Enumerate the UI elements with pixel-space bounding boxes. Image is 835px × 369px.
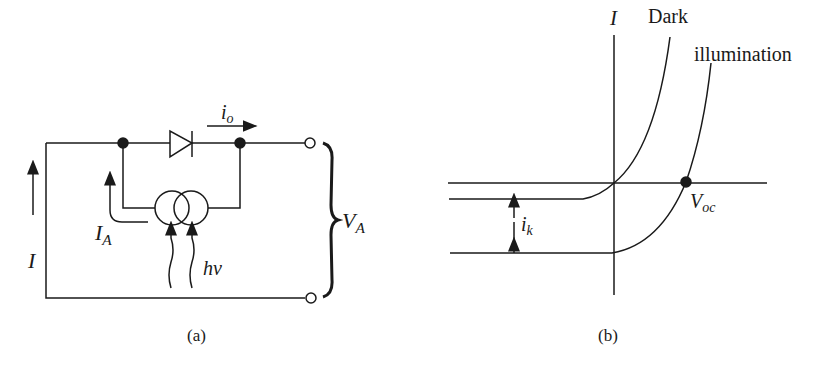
label-IA: IA xyxy=(95,222,112,247)
node-right xyxy=(235,138,245,148)
voltage-brace xyxy=(323,143,338,297)
dark-curve xyxy=(449,37,670,199)
photon-arrow-2 xyxy=(190,228,194,288)
caption-a: (a) xyxy=(187,327,206,344)
caption-b: (b) xyxy=(598,327,618,344)
Voc-point xyxy=(681,177,691,187)
terminal-top xyxy=(305,138,315,148)
label-I: I xyxy=(28,250,35,272)
photon-arrow-1 xyxy=(169,228,173,288)
current-source-symbol xyxy=(155,191,208,225)
label-axis-I: I xyxy=(610,8,617,29)
current-IA-arrow xyxy=(110,178,148,222)
label-ik: ik xyxy=(521,214,533,238)
label-VA: VA xyxy=(342,210,365,235)
label-Voc: Voc xyxy=(690,191,715,215)
label-hv: hν xyxy=(203,258,222,278)
label-illumination: illumination xyxy=(694,44,792,64)
illumination-curve xyxy=(450,63,711,253)
node-left xyxy=(118,138,128,148)
circuit-wires xyxy=(46,143,305,298)
label-io: io xyxy=(221,102,234,126)
label-dark: Dark xyxy=(648,6,688,26)
terminal-bottom xyxy=(306,293,316,303)
diode-symbol xyxy=(170,131,192,157)
